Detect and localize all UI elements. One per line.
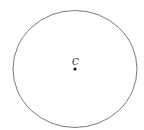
center-label: C [72, 57, 79, 67]
center-point [73, 67, 76, 70]
circle-diagram: C [0, 0, 144, 130]
